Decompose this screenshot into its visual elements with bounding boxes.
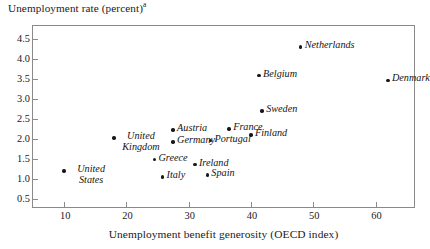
x-tick: 30	[189, 202, 190, 207]
x-tick: 60	[376, 202, 377, 207]
y-tick: 3.0	[33, 99, 38, 100]
data-point-label: Austria	[177, 123, 207, 134]
data-point-label: Sweden	[266, 104, 297, 115]
data-point-label: Belgium	[263, 69, 297, 80]
y-tick: 1.5	[33, 159, 38, 160]
plot-area: 0.51.01.52.02.53.03.54.04.5 102030405060…	[32, 25, 415, 208]
y-tick: 3.5	[33, 79, 38, 80]
data-point-marker	[112, 136, 115, 139]
y-tick: 4.5	[33, 39, 38, 40]
y-axis-title-text: Unemployment rate (percent)	[8, 2, 143, 14]
y-axis-title: Unemployment rate (percent)a	[8, 2, 146, 14]
data-point-marker	[249, 133, 252, 136]
data-point-label: Portugal	[214, 134, 250, 145]
x-tick: 50	[313, 202, 314, 207]
data-point-marker	[153, 158, 156, 161]
x-tick-label: 40	[247, 210, 257, 221]
y-tick-label: 2.0	[17, 133, 30, 144]
y-tick-label: 4.0	[17, 53, 30, 64]
y-tick-label: 3.0	[17, 93, 30, 104]
data-point-marker	[257, 74, 260, 77]
data-point-label: Greece	[158, 153, 187, 164]
data-point-label: Finland	[255, 128, 287, 139]
x-tick: 20	[126, 202, 127, 207]
data-point-marker	[386, 79, 389, 82]
data-point-marker	[206, 173, 209, 176]
y-tick-label: 0.5	[17, 193, 30, 204]
data-point-label: Spain	[211, 168, 234, 179]
y-tick-label: 3.5	[17, 73, 30, 84]
x-tick-label: 50	[309, 210, 319, 221]
x-tick: 40	[251, 202, 252, 207]
data-point-marker	[260, 109, 263, 112]
data-point-marker	[62, 169, 65, 172]
x-tick-label: 20	[122, 210, 132, 221]
data-point-marker	[171, 140, 174, 143]
y-tick-label: 2.5	[17, 113, 30, 124]
y-axis-title-superscript: a	[143, 0, 146, 9]
x-axis-title: Unemployment benefit generosity (OECD in…	[32, 228, 415, 240]
data-point-marker	[227, 127, 230, 130]
y-tick: 0.5	[33, 199, 38, 200]
x-tick-label: 30	[184, 210, 194, 221]
y-tick: 4.0	[33, 59, 38, 60]
x-tick-label: 10	[60, 210, 70, 221]
data-point-label: Italy	[167, 170, 186, 181]
data-point-marker	[171, 128, 174, 131]
data-point-marker	[193, 163, 196, 166]
y-tick: 2.5	[33, 119, 38, 120]
y-tick-label: 4.5	[17, 33, 30, 44]
data-point-label: United Kingdom	[118, 131, 164, 152]
data-point-label: United States	[68, 164, 114, 185]
y-tick: 1.0	[33, 179, 38, 180]
data-point-label: Netherlands	[305, 40, 355, 51]
x-tick: 10	[64, 202, 65, 207]
y-tick: 2.0	[33, 139, 38, 140]
data-point-marker	[299, 45, 302, 48]
y-tick-label: 1.0	[17, 173, 30, 184]
x-tick-label: 60	[371, 210, 381, 221]
data-point-marker	[161, 175, 164, 178]
y-tick-label: 1.5	[17, 153, 30, 164]
data-point-label: Denmark	[392, 73, 430, 84]
